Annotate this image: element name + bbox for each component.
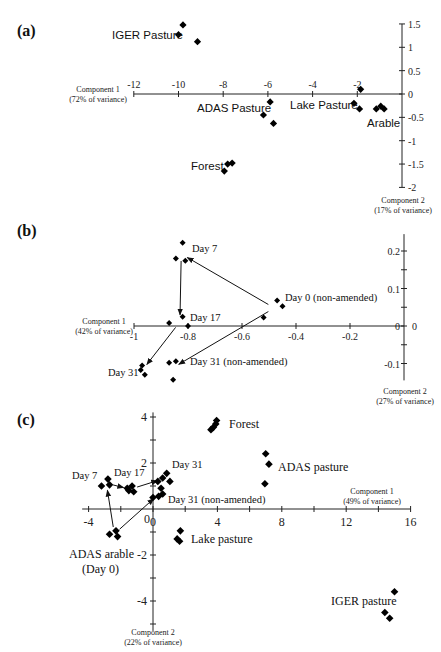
trajectory-arrow (147, 327, 176, 364)
x-tick-label: -4 (308, 79, 316, 90)
label-day31: Day 31 (108, 367, 139, 378)
x-tick-label: 12 (340, 515, 352, 529)
label-adas-arable: ADAS arable (69, 547, 134, 561)
y-tick-label: 0.2 (388, 246, 401, 257)
data-point (149, 494, 157, 502)
data-point (177, 527, 185, 535)
panel-a-x-title: Component 1 (76, 85, 119, 94)
y-tick-label: 1 (408, 42, 413, 53)
x-tick-label: -8 (219, 79, 227, 90)
label-adas-arable-day0: (Day 0) (82, 562, 119, 576)
panel-c-x-title: Component 1 (350, 487, 393, 496)
data-point (180, 240, 186, 246)
y-tick-label: -4 (137, 594, 147, 608)
panel-b-x-subtitle: (42% of variance) (75, 327, 133, 336)
data-point (185, 323, 191, 329)
label-adas-pasture: ADAS pasture (278, 460, 348, 474)
label-day0-non-amended: Day 0 (non-amended) (285, 292, 378, 304)
trajectory-arrow (113, 485, 124, 488)
x-tick-label: 8 (279, 515, 285, 529)
label-forest: Forest (191, 160, 224, 172)
data-point (139, 362, 145, 368)
panel-b-y-title: Component 2 (383, 387, 426, 396)
trajectory-arrow (180, 261, 181, 315)
y-tick-label: 0.1 (388, 284, 401, 295)
label-day17: Day 17 (114, 467, 145, 478)
x-origin-label: 0 (412, 321, 417, 332)
panel-b-arrows (147, 258, 269, 365)
y-tick-label: -0.1 (384, 359, 400, 370)
x-tick-label: -10 (172, 79, 185, 90)
label-arable: Arable (367, 117, 400, 129)
label-forest: Forest (229, 417, 260, 431)
label-adas-pasture: ADAS Pasture (197, 102, 271, 114)
data-point (280, 303, 286, 309)
data-point (173, 358, 179, 364)
data-point (138, 367, 144, 373)
panel-c-x-subtitle: (49% of variance) (343, 497, 401, 506)
x-tick-label: -6 (264, 79, 272, 90)
panel-b-y-subtitle: (27% of variance) (376, 397, 434, 406)
y-tick-label: -2 (137, 548, 147, 562)
data-point (166, 320, 172, 326)
panel-c-y-title: Component 2 (131, 628, 174, 637)
label-lake-pasture: Lake Pasture (290, 99, 358, 111)
trajectory-arrow (187, 258, 268, 305)
data-point (262, 450, 270, 458)
y-tick-label: -1.5 (408, 159, 424, 170)
data-point (381, 609, 389, 617)
label-iger-pasture: IGER pasture (331, 594, 397, 608)
panel-a-y-title: Component 2 (381, 196, 424, 205)
data-point (261, 480, 269, 488)
x-tick-label: -12 (127, 79, 140, 90)
x-tick-label: -0.8 (180, 331, 196, 342)
panel-c-y-subtitle: (22% of variance) (124, 638, 182, 647)
x-tick-label: 4 (214, 515, 220, 529)
x-tick-label: 0 (150, 515, 156, 529)
data-point (270, 120, 277, 127)
y-tick-label: 1.5 (408, 19, 421, 30)
y-tick-label: -1 (408, 136, 416, 147)
panel-a-label: (a) (17, 22, 36, 40)
data-point (194, 38, 201, 45)
data-point (179, 21, 186, 28)
data-point (142, 372, 148, 378)
data-point (166, 360, 172, 366)
data-point (182, 258, 188, 264)
data-point (114, 533, 122, 541)
data-point (104, 475, 112, 483)
x-tick-label: -0.4 (288, 331, 304, 342)
panel-a-points (175, 21, 388, 174)
label-day31-non-amended: Day 31 (non-amended) (168, 494, 266, 506)
y-tick-label: 0.5 (408, 66, 421, 77)
data-point (166, 478, 174, 486)
panel-a-y-subtitle: (17% of variance) (374, 206, 432, 215)
data-point (386, 614, 394, 622)
label-iger-pasture: IGER Pasture (112, 29, 183, 41)
label-day31-non-amended: Day 31 (non-amended) (190, 356, 288, 368)
y-tick-label: 0 (408, 89, 413, 100)
label-day7: Day 7 (192, 243, 217, 254)
data-point (106, 531, 114, 539)
x-tick-label: -0.2 (342, 331, 358, 342)
y-tick-label: 0 (395, 321, 400, 332)
label-day17: Day 17 (190, 312, 221, 323)
panel-b-x-title: Component 1 (82, 317, 125, 326)
data-point (157, 485, 165, 493)
y-tick-label: -0.5 (408, 112, 424, 123)
origin-label: 0 (144, 512, 150, 526)
data-point (106, 481, 114, 489)
data-point (112, 527, 120, 535)
label-day31: Day 31 (172, 459, 203, 470)
label-lake-pasture: Lake pasture (191, 532, 253, 546)
x-tick-label: -0.6 (234, 331, 250, 342)
panel-c: (c) -4048121642-2-40 Component 1 (49% of… (17, 410, 417, 647)
panel-c-label: (c) (17, 411, 35, 429)
pca-figure: (a) -12-10-8-6-4-21.510.50-0.5-1-1.5-2 C… (0, 0, 441, 652)
label-day7: Day 7 (72, 470, 97, 481)
data-point (274, 298, 280, 304)
data-point (170, 377, 176, 383)
panel-b-label: (b) (17, 222, 37, 240)
y-tick-label: 4 (141, 410, 147, 424)
y-tick-label: -2 (408, 182, 416, 193)
